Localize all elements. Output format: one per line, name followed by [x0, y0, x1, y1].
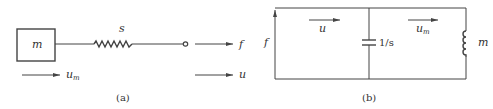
capacitor-label: 1/s [379, 37, 394, 48]
caption-b: (b) [362, 92, 376, 103]
diagram-canvas: m s f um u (a) f 1/s m [0, 0, 493, 109]
figure-b: f 1/s m u um (b) [263, 8, 488, 103]
mass-label: m [32, 38, 42, 51]
current-left-label: u [319, 22, 326, 35]
caption-a: (a) [116, 92, 130, 103]
terminal-node [183, 42, 187, 46]
inductor-icon [463, 31, 466, 57]
inductor-label: m [478, 36, 488, 49]
source-label: f [263, 36, 270, 49]
mass-velocity-label: um [66, 68, 80, 82]
figure-a: m s f um u (a) [17, 22, 246, 103]
spring-icon [94, 41, 132, 47]
spring-label: s [119, 22, 125, 35]
terminal-velocity-label: u [239, 68, 246, 81]
force-label: f [238, 38, 245, 51]
current-right-label: um [416, 22, 430, 36]
